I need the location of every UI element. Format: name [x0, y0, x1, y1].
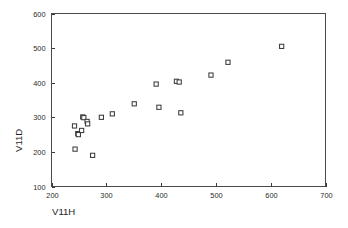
- x-axis-tick-labels: 200300400500600700: [46, 191, 332, 200]
- data-point-marker: [177, 80, 181, 84]
- x-tick-label: 300: [100, 191, 112, 200]
- x-axis-title: V11H: [52, 206, 75, 217]
- data-point-marker: [157, 105, 161, 109]
- data-point-marker: [179, 111, 183, 115]
- y-tick-label: 300: [33, 113, 45, 122]
- data-point-marker: [80, 128, 84, 132]
- x-tick-label: 200: [46, 191, 58, 200]
- x-tick-label: 400: [155, 191, 167, 200]
- x-tick-label: 500: [210, 191, 222, 200]
- data-point-marker: [280, 44, 284, 48]
- y-tick-label: 500: [33, 44, 45, 53]
- axes-frame-rect: [52, 14, 326, 187]
- y-tick-label: 100: [33, 183, 45, 192]
- plot-frame: [52, 14, 326, 187]
- y-tick-label: 400: [33, 79, 45, 88]
- data-point-marker: [110, 112, 114, 116]
- plot-canvas: 200300400500600700 100200300400500600 V1…: [0, 0, 348, 228]
- data-point-marker: [226, 60, 230, 64]
- data-point-marker: [86, 122, 90, 126]
- data-point-marker: [73, 147, 77, 151]
- y-tick-label: 600: [33, 10, 45, 19]
- scatter-plot-figure: 200300400500600700 100200300400500600 V1…: [0, 0, 348, 228]
- data-point-marker: [91, 153, 95, 157]
- data-point-marker: [154, 82, 158, 86]
- data-point-series: [72, 44, 283, 157]
- x-tick-label: 600: [265, 191, 277, 200]
- y-tick-label: 200: [33, 148, 45, 157]
- x-tick-label: 700: [320, 191, 332, 200]
- y-axis-title: V11D: [13, 129, 24, 152]
- data-point-marker: [99, 115, 103, 119]
- y-axis-tick-labels: 100200300400500600: [33, 10, 45, 192]
- data-point-marker: [76, 133, 80, 137]
- data-point-marker: [132, 102, 136, 106]
- data-point-marker: [209, 73, 213, 77]
- data-point-marker: [72, 124, 76, 128]
